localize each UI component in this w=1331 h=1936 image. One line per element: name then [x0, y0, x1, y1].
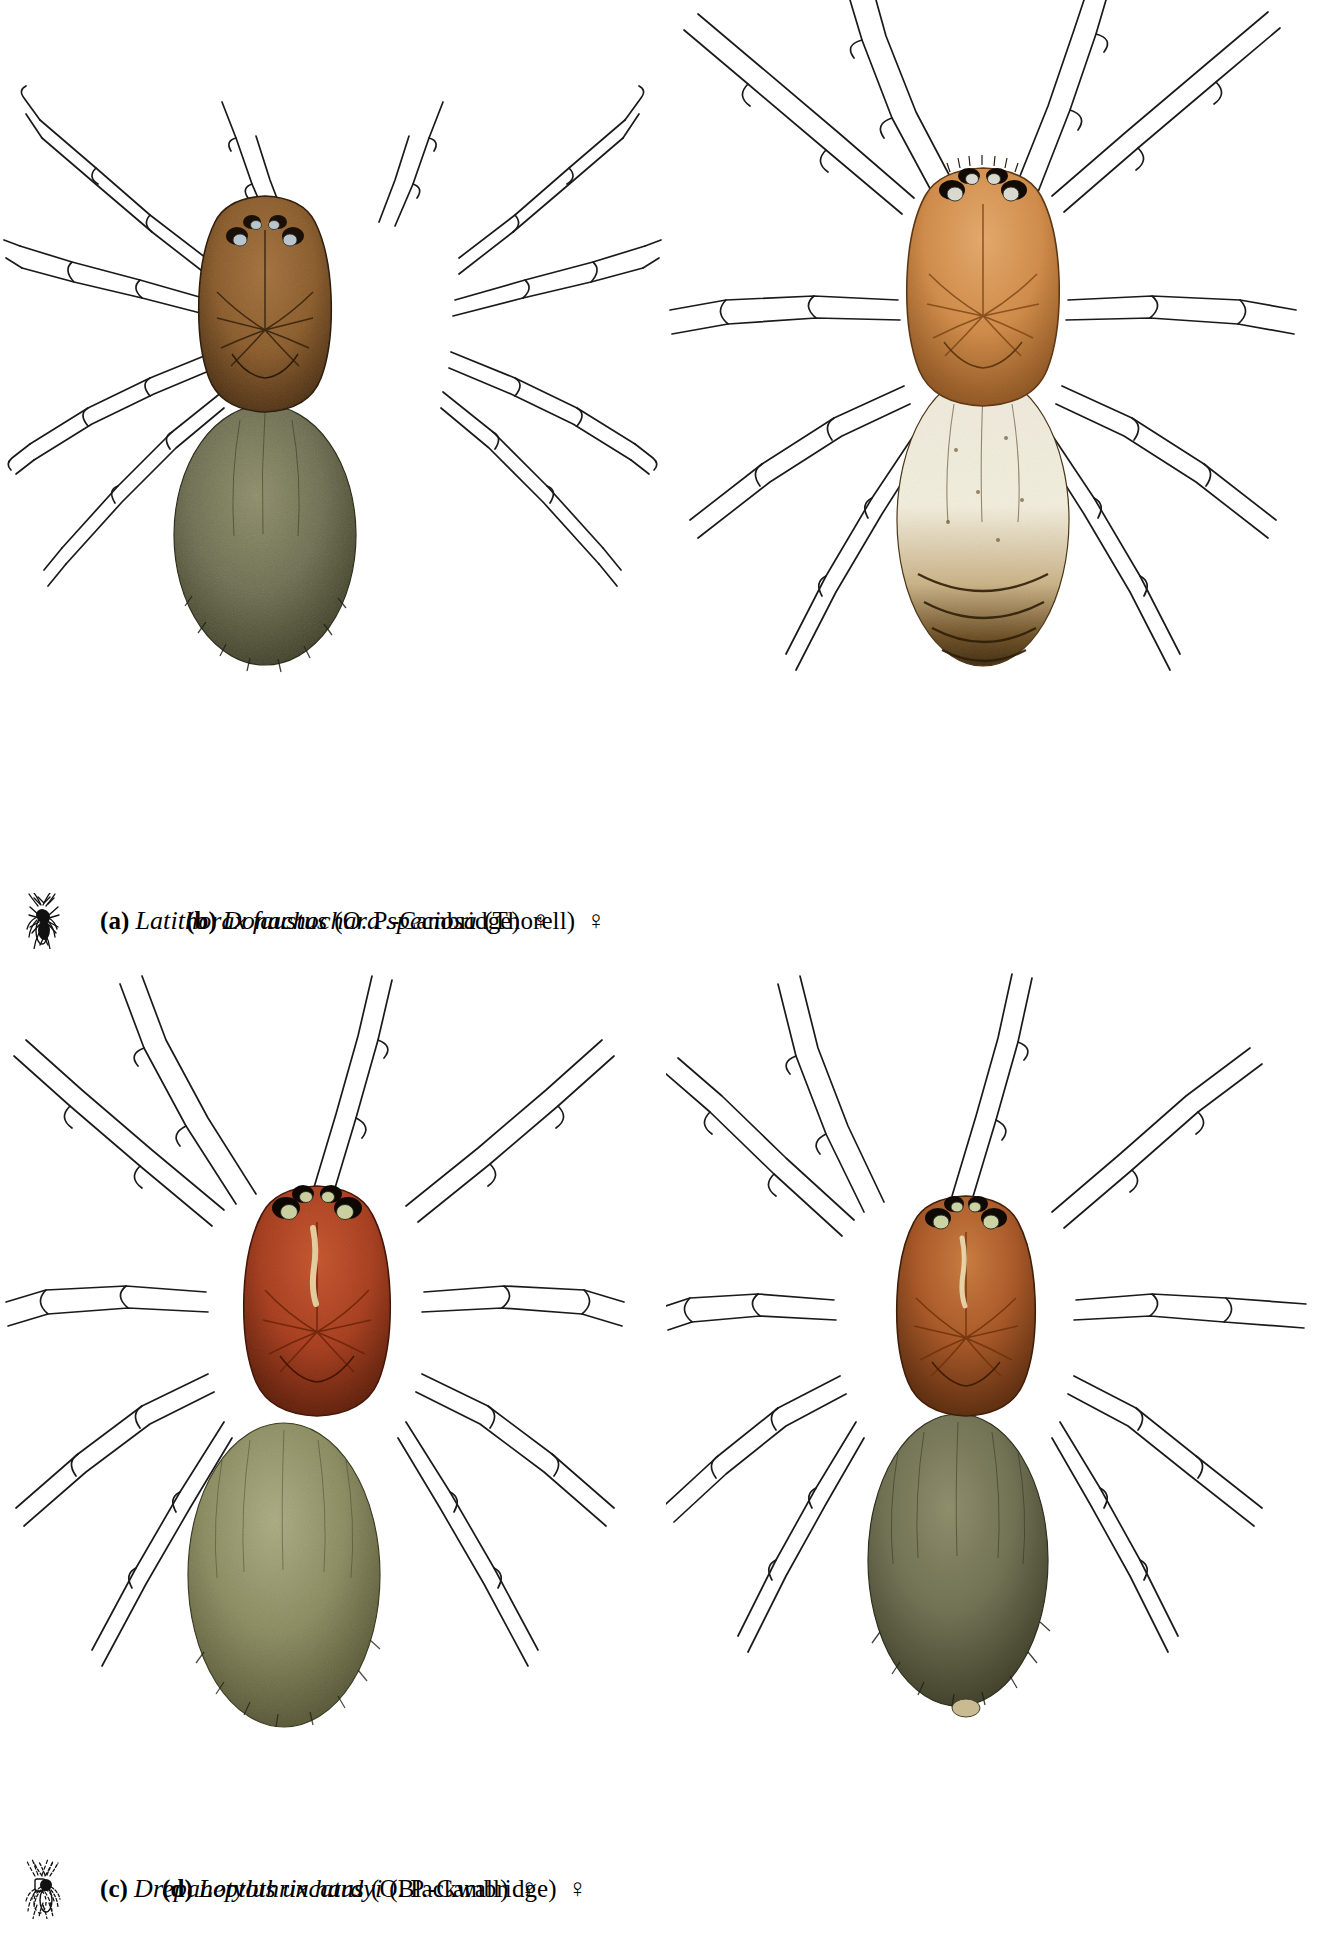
female-symbol-icon: ♀ — [508, 1876, 539, 1902]
panel-c — [0, 960, 665, 1936]
caption-text-d: (d) Leptothrix hardyi (Blackwall) ♀ — [162, 1876, 539, 1902]
spider-illustration-a — [0, 0, 665, 960]
mini-spider-icon — [12, 888, 72, 954]
mini-spider-icon — [10, 1856, 70, 1922]
spider-illustration-d — [666, 960, 1331, 1936]
species-name: Donachochara speciosa — [217, 908, 477, 934]
caption-letter: (d) — [162, 1876, 193, 1901]
species-name: Leptothrix hardyi — [193, 1876, 382, 1902]
illustration-plate: (a) Latithorax faustus (O. P.-Cambridge)… — [0, 0, 1331, 1936]
spider-illustration-c — [0, 960, 665, 1936]
caption-d: (d) Leptothrix hardyi (Blackwall) ♀ — [0, 1856, 1331, 1922]
female-symbol-icon: ♀ — [575, 908, 606, 934]
caption-letter: (b) — [186, 908, 217, 933]
spider-illustration-b — [666, 0, 1331, 960]
caption-b: (b) Donachochara speciosa (Thorell) ♀ — [0, 888, 1331, 954]
panel-d — [666, 960, 1331, 1936]
authority-name: (Thorell) — [477, 908, 575, 933]
authority-name: (Blackwall) — [382, 1876, 508, 1901]
panel-a — [0, 0, 665, 960]
panel-b — [666, 0, 1331, 960]
caption-text-b: (b) Donachochara speciosa (Thorell) ♀ — [186, 908, 606, 934]
page-corner-rule — [1153, 2, 1323, 12]
